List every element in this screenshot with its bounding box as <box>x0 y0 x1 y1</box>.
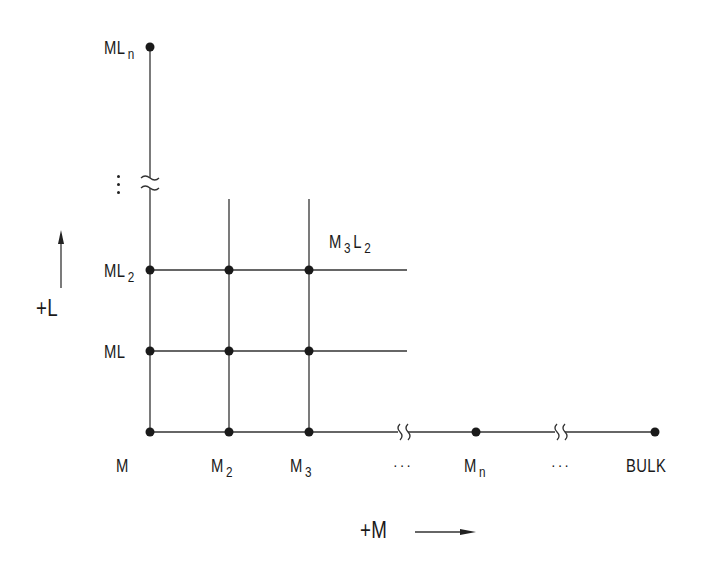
node-m2l2 <box>225 266 234 275</box>
label-m-3: M3 <box>290 456 312 479</box>
ellipsis-2: ··· <box>551 458 571 472</box>
node-m3l2 <box>305 266 314 275</box>
node-m2 <box>225 428 234 437</box>
ellipsis-1: ··· <box>393 458 413 472</box>
node-ml2 <box>146 266 155 275</box>
node-mln <box>146 43 155 52</box>
label-bulk: BULK <box>626 456 666 475</box>
node-m <box>146 428 155 437</box>
node-m3 <box>305 428 314 437</box>
node-m3l <box>305 347 314 356</box>
m-axis-arrowhead-icon <box>460 529 476 535</box>
label-m: M <box>116 456 129 475</box>
label-m3l2: M3L2 <box>329 232 371 255</box>
lattice-diagram <box>0 0 709 572</box>
label-ml-2: ML2 <box>104 261 135 284</box>
horizontal-break-icon <box>555 424 567 440</box>
node-ml <box>146 347 155 356</box>
horizontal-break-icon <box>398 424 410 440</box>
vertical-break-icon <box>141 176 159 190</box>
axis-label-plus-m: +M <box>360 518 387 542</box>
axis-label-plus-l: +L <box>36 296 58 320</box>
node-bulk <box>651 428 660 437</box>
label-m-n: Mn <box>464 456 486 479</box>
l-axis-arrowhead-icon <box>58 230 64 244</box>
label-ml-n: MLn <box>104 38 135 61</box>
label-m-2: M2 <box>211 456 233 479</box>
vertical-ellipsis-icon <box>117 175 121 199</box>
node-mn <box>472 428 481 437</box>
node-m2l <box>225 347 234 356</box>
label-ml: ML <box>104 342 125 361</box>
